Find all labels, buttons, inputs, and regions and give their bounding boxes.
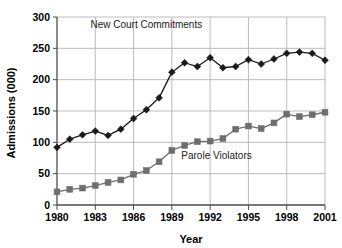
data-point-square [194,139,200,145]
x-tick-label: 1980 [45,211,69,223]
series-annotations: New Court CommitmentsParole Violators [90,19,251,162]
y-tick-labels: 050100150200250300 [32,11,50,211]
data-point-diamond [105,132,112,139]
data-point-diamond [283,50,290,57]
y-tick-label: 250 [32,42,50,54]
y-tick-label: 0 [44,199,50,211]
line-chart: 050100150200250300 198019831986198919921… [0,0,342,248]
data-point-square [182,143,188,149]
data-point-square [143,168,149,174]
x-axis-title: Year [179,233,203,245]
data-point-diamond [66,136,73,143]
data-point-square [131,171,137,177]
data-point-square [169,148,175,154]
data-point-diamond [271,56,278,63]
data-point-diamond [232,63,239,70]
data-point-square [297,114,303,120]
data-point-square [258,126,264,132]
data-point-square [309,112,315,118]
data-point-square [54,189,60,195]
data-point-square [105,180,111,186]
data-point-diamond [322,57,329,64]
data-point-diamond [296,49,303,56]
y-tick-label: 100 [32,136,50,148]
x-tick-marks [57,205,325,210]
data-point-square [284,111,290,117]
data-point-square [80,185,86,191]
data-point-diamond [54,144,61,151]
data-point-diamond [79,131,86,138]
y-tick-label: 200 [32,73,50,85]
data-point-diamond [92,128,99,135]
data-point-square [220,136,226,142]
x-tick-label: 1986 [122,211,146,223]
y-tick-label: 150 [32,105,50,117]
data-series-layer [54,49,329,195]
data-point-diamond [309,50,316,57]
data-point-square [67,186,73,192]
x-tick-label: 1998 [275,211,299,223]
y-axis-title: Admissions (000) [5,67,17,158]
x-tick-label: 1992 [198,211,222,223]
x-tick-labels: 19801983198619891992199519982001 [45,211,337,223]
data-point-square [92,183,98,189]
data-point-square [246,123,252,129]
data-point-diamond [245,56,252,63]
data-point-square [322,109,328,115]
data-point-diamond [258,61,265,68]
y-tick-label: 50 [38,167,50,179]
y-tick-label: 300 [32,11,50,23]
data-point-square [271,120,277,126]
x-tick-label: 1995 [237,211,261,223]
data-point-square [118,177,124,183]
data-point-square [233,126,239,132]
x-tick-label: 1989 [160,211,184,223]
series-1 [54,49,329,151]
x-tick-label: 1983 [84,211,108,223]
series-label-2: Parole Violators [181,150,251,161]
chart-container: 050100150200250300 198019831986198919921… [0,0,342,248]
series-label-1: New Court Commitments [90,19,202,30]
data-point-square [207,138,213,144]
x-tick-label: 2001 [313,211,337,223]
data-point-square [156,159,162,165]
series-line [57,52,325,147]
